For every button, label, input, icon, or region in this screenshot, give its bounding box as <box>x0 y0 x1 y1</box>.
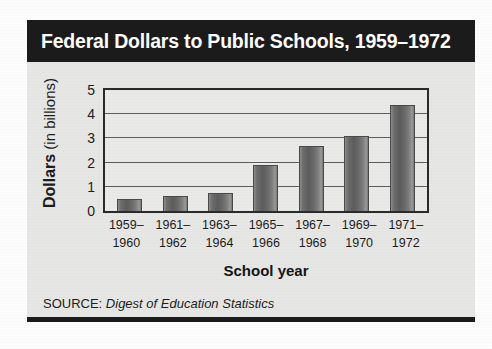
bar <box>299 146 324 211</box>
y-axis-tick-label: 5 <box>73 83 95 97</box>
bar <box>117 199 142 211</box>
y-axis-tick-label: 4 <box>73 107 95 121</box>
x-axis-tick-label: 1959–1960 <box>103 217 150 253</box>
x-axis-tick-label-line: 1962 <box>150 235 197 253</box>
bar <box>344 136 369 211</box>
chart-title-band: Federal Dollars to Public Schools, 1959–… <box>27 20 475 62</box>
page-title: Federal Dollars to Public Schools, 1959–… <box>41 30 451 53</box>
source-label: SOURCE: <box>43 296 102 311</box>
x-axis-tick-label-line: 1972 <box>382 235 429 253</box>
x-axis-tick-label-line: 1967– <box>289 217 336 235</box>
y-axis-tick-label: 2 <box>73 156 95 170</box>
y-axis-title-strong: Dollars <box>41 154 58 208</box>
x-axis-tick-label-line: 1965– <box>243 217 290 235</box>
x-axis-tick-label-line: 1969– <box>336 217 383 235</box>
source-title: Digest of Education Statistics <box>106 296 274 311</box>
bar <box>163 196 188 211</box>
x-axis-tick-label-line: 1959– <box>103 217 150 235</box>
bar-slot <box>107 90 152 211</box>
y-axis-tick-label: 3 <box>73 131 95 145</box>
bar <box>253 165 278 211</box>
y-axis-tick-label: 1 <box>73 180 95 194</box>
y-axis-tick-label: 0 <box>73 204 95 218</box>
chart-plot-area: Dollars (in billions) 012345 1959–196019… <box>27 62 475 317</box>
x-axis-tick-label-line: 1960 <box>103 235 150 253</box>
x-axis-tick-label-line: 1968 <box>289 235 336 253</box>
x-axis-tick-label-line: 1964 <box>196 235 243 253</box>
bar-slot <box>152 90 197 211</box>
source-note: SOURCE: Digest of Education Statistics <box>43 296 274 311</box>
x-axis-tick-label-line: 1971– <box>382 217 429 235</box>
bar-slot <box>243 90 288 211</box>
bottom-rule <box>27 317 475 322</box>
plot-box <box>103 88 429 213</box>
x-axis-tick-label: 1961–1962 <box>150 217 197 253</box>
y-axis-title-light: (in billions) <box>41 78 58 154</box>
bar-slot <box>198 90 243 211</box>
scanned-page: Federal Dollars to Public Schools, 1959–… <box>0 0 492 349</box>
x-axis-title: School year <box>103 262 429 279</box>
x-axis-tick-label: 1969–1970 <box>336 217 383 253</box>
chart-figure: Federal Dollars to Public Schools, 1959–… <box>27 20 475 322</box>
bar <box>390 105 415 211</box>
x-axis-tick-label: 1963–1964 <box>196 217 243 253</box>
bar-slot <box>289 90 334 211</box>
bar <box>208 193 233 211</box>
x-axis-tick-label-line: 1966 <box>243 235 290 253</box>
bar-slot <box>380 90 425 211</box>
x-axis-tick-label: 1971–1972 <box>382 217 429 253</box>
x-axis-tick-label: 1967–1968 <box>289 217 336 253</box>
x-axis-tick-label-line: 1963– <box>196 217 243 235</box>
bar-series <box>107 90 425 211</box>
x-axis-tick-labels: 1959–19601961–19621963–19641965–19661967… <box>103 217 429 253</box>
x-axis-tick-label-line: 1970 <box>336 235 383 253</box>
bar-slot <box>334 90 379 211</box>
x-axis-tick-label: 1965–1966 <box>243 217 290 253</box>
y-axis-title: Dollars (in billions) <box>41 58 59 228</box>
x-axis-tick-label-line: 1961– <box>150 217 197 235</box>
